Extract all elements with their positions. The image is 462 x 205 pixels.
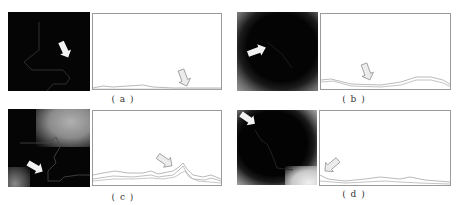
arrow-icon [25,158,46,177]
arrow-icon [246,42,268,60]
panel-a-caption: ( a ) [103,94,143,104]
panel-b-plot [320,13,451,90]
panel-c-curves [93,111,223,187]
arrow-icon [155,151,176,171]
panel-d-image [237,110,317,185]
panel-d-image-overlay [237,110,317,185]
panel-c-image [8,109,90,187]
panel-a-image-overlay [8,12,90,91]
panel-d-plot [319,110,451,186]
panel-b-curves [321,14,452,91]
arrow-icon [175,68,192,88]
panel-a-plot [92,13,222,90]
panel-c-caption: ( c ) [103,192,143,202]
panel-a-curves [93,14,223,91]
panel-c-plot [92,110,222,186]
panel-b-image-overlay [237,12,318,91]
panel-d-curves [320,111,452,187]
panel-d-caption: ( d ) [334,189,374,199]
panel-a-image [8,12,90,91]
panel-b-image [237,12,318,91]
arrow-icon [358,62,375,82]
arrow-icon [56,39,74,59]
arrow-icon [321,155,342,175]
panel-b-caption: ( b ) [334,94,374,104]
arrow-icon [238,110,259,129]
panel-c-image-overlay [8,109,90,187]
